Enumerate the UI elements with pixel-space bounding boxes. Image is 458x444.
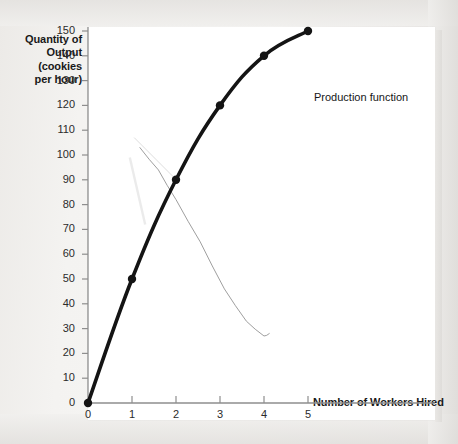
chart-graphics: [0, 0, 458, 444]
chart-page: Quantity of Output (cookies per hour) Nu…: [0, 0, 458, 444]
axis-lines: [88, 27, 435, 403]
production-function-markers: [84, 27, 312, 407]
axis-ticks: [82, 31, 308, 403]
production-function-curve: [88, 31, 308, 403]
